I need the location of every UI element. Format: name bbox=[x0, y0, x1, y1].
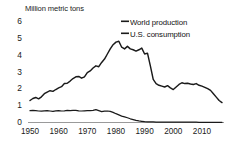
y-tick-label-2: 2 bbox=[8, 84, 22, 92]
x-tick-label-1970: 1970 bbox=[72, 128, 102, 136]
x-tick-label-2000: 2000 bbox=[158, 128, 188, 136]
y-tick-label-4: 4 bbox=[8, 51, 22, 59]
x-tick-label-1950: 1950 bbox=[15, 128, 45, 136]
y-tick-label-5: 5 bbox=[8, 34, 22, 42]
y-tick-label-1: 1 bbox=[8, 101, 22, 109]
series-line-world-production bbox=[30, 41, 222, 102]
y-tick-label-3: 3 bbox=[8, 68, 22, 76]
x-tick-label-1980: 1980 bbox=[101, 128, 131, 136]
x-tick-label-2010: 2010 bbox=[187, 128, 217, 136]
legend-label-world-production: World production bbox=[130, 18, 187, 27]
x-tick-label-1960: 1960 bbox=[44, 128, 74, 136]
chart-plot-area bbox=[0, 0, 227, 141]
y-tick-label-0: 0 bbox=[8, 118, 22, 126]
series-line-us-consumption bbox=[30, 110, 222, 123]
legend-label-us-consumption: U.S. consumption bbox=[130, 30, 190, 39]
x-tick-label-1990: 1990 bbox=[130, 128, 160, 136]
y-tick-label-6: 6 bbox=[8, 17, 22, 25]
chart-figure: Million metric tons World production U.S… bbox=[0, 0, 227, 141]
